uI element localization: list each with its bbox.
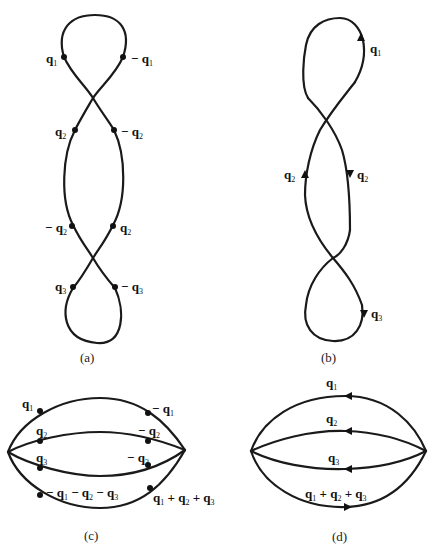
label-q1: q1 — [22, 396, 33, 413]
vertex-dot — [111, 127, 117, 133]
panel-d-line-2 — [251, 431, 426, 451]
label-q3: q3 — [55, 279, 66, 296]
caption-b: (b) — [321, 350, 336, 365]
panel-a-middle-left — [64, 130, 75, 225]
vertex-dot — [37, 438, 43, 444]
caption-c: (c) — [84, 528, 98, 543]
label-q3: q3 — [371, 306, 382, 323]
label-q1: q1 — [326, 375, 337, 392]
label-minus-q2: − q2 — [121, 124, 143, 141]
vertex-dot — [37, 465, 43, 471]
label-q2: q2 — [284, 167, 295, 184]
panel-d: q1 q2 q3 q1 + q2 + q3 (d) — [251, 375, 426, 544]
label-minus-q3: − q3 — [127, 450, 149, 467]
arrow-right-icon — [344, 503, 352, 511]
panel-d-line-1 — [251, 396, 426, 451]
caption-d: (d) — [332, 529, 347, 544]
label-minus-q1: − q1 — [152, 401, 174, 418]
panel-b-top-loop — [303, 18, 364, 98]
panel-c: q1 − q1 q2 − q2 q3 − q3 − q1 − q2 − q3 q… — [8, 396, 215, 543]
panel-a-strand — [64, 57, 114, 130]
vertex-dot — [72, 127, 78, 133]
arrow-left-icon — [344, 392, 352, 400]
vertex-dot — [145, 438, 151, 444]
label-q1: q1 — [46, 51, 57, 68]
vertex-dot — [110, 223, 116, 229]
panel-b-bottom-loop — [305, 305, 362, 341]
label-q1-q2-q3-sum: q1 + q2 + q3 — [153, 490, 215, 507]
label-q2: q2 — [326, 411, 337, 428]
panel-b: q1 q2 q2 q3 (b) — [284, 18, 382, 365]
vertex-dot — [37, 492, 43, 498]
vertex-dot — [120, 54, 126, 60]
label-q2: q2 — [120, 220, 131, 237]
vertex-dot — [61, 54, 67, 60]
arrow-left-icon — [344, 427, 352, 435]
panel-a-top-loop — [62, 15, 126, 57]
vertex-dot — [112, 284, 118, 290]
feynman-diagram-figure: q1 − q1 q2 − q2 − q2 q2 q3 − q3 (a) q1 q… — [0, 0, 438, 552]
panel-b-lower-right — [306, 230, 350, 305]
vertex-dot — [69, 223, 75, 229]
label-minus-q3: − q3 — [121, 279, 143, 296]
label-q3: q3 — [328, 450, 339, 467]
label-minus-q1: − q1 — [131, 51, 153, 68]
panel-a: q1 − q1 q2 − q2 − q2 q2 q3 − q3 (a) — [45, 15, 153, 365]
panel-c-line-3 — [8, 450, 185, 476]
label-q1-q2-q3-sum: q1 + q2 + q3 — [305, 486, 367, 503]
label-q2: q2 — [357, 167, 368, 184]
label-q2: q2 — [55, 124, 66, 141]
arrow-up-icon — [357, 33, 365, 41]
panel-a-middle-right — [113, 130, 123, 225]
vertex-dot — [37, 408, 43, 414]
vertex-dot — [70, 284, 76, 290]
panel-a-bottom-loop — [66, 288, 121, 343]
label-q3: q3 — [36, 450, 47, 467]
caption-a: (a) — [80, 350, 94, 365]
label-minus-q1-q2-q3: − q1 − q2 − q3 — [46, 485, 118, 502]
label-minus-q2: − q2 — [138, 423, 160, 440]
vertex-dot — [145, 410, 151, 416]
arrow-left-icon — [344, 465, 352, 473]
label-minus-q2: − q2 — [45, 220, 67, 237]
label-q2: q2 — [36, 423, 47, 440]
panel-a-strand — [75, 57, 123, 130]
panel-b-lower-left — [305, 195, 362, 305]
label-q1: q1 — [370, 41, 381, 58]
